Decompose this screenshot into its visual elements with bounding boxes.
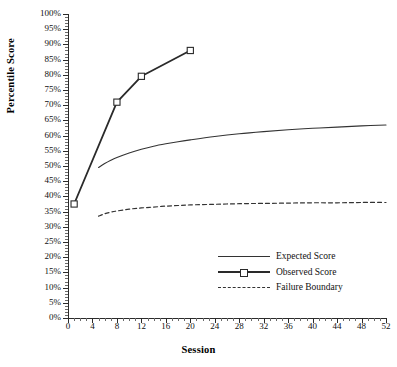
data-point-marker — [138, 73, 144, 79]
plot-area — [0, 0, 397, 367]
legend-label-expected-score: Expected Score — [276, 249, 335, 265]
legend-swatch-solid-line — [218, 251, 270, 262]
legend-item-expected-score: Expected Score — [218, 249, 343, 265]
series-line-expected-score — [99, 125, 386, 168]
legend-item-observed-score: Observed Score — [218, 265, 343, 281]
series-line-failure-boundary — [99, 202, 386, 216]
series-line-observed-score — [74, 50, 190, 204]
data-point-marker — [187, 47, 193, 53]
percentile-score-chart: Percentile Score Session 0%5%10%15%20%25… — [0, 0, 397, 367]
legend-swatch-dashed-line — [218, 282, 270, 293]
data-point-marker — [114, 99, 120, 105]
legend-item-failure-boundary: Failure Boundary — [218, 280, 343, 296]
data-point-marker — [71, 201, 77, 207]
chart-legend: Expected Score Observed Score Failure Bo… — [218, 249, 343, 296]
legend-swatch-marker-line — [218, 267, 270, 278]
legend-label-failure-boundary: Failure Boundary — [276, 280, 343, 296]
legend-label-observed-score: Observed Score — [276, 265, 336, 281]
